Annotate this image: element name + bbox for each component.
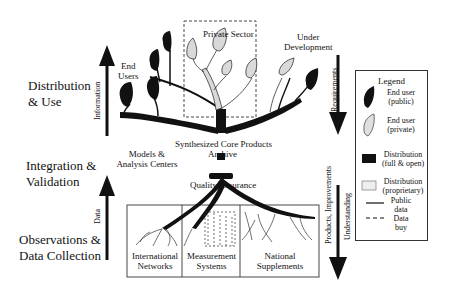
legend-item-public-data: Public data xyxy=(386,196,416,214)
stage-observations-label: Observations & Data Collection xyxy=(19,232,101,263)
legend-private-line1: End user xyxy=(378,116,424,125)
legend-databuy-line1: Data xyxy=(386,214,416,223)
stage-observations-line1: Observations & xyxy=(19,232,101,248)
stage-integration-line2: Validation xyxy=(26,174,96,190)
legend-item-proprietary: Distribution (proprietary) xyxy=(378,177,428,195)
products-improvements-label: Products, Improvements xyxy=(324,166,333,244)
legend-public-line2: (public) xyxy=(378,97,424,106)
private-sector-label: Private Sector xyxy=(203,30,254,40)
legend-item-data-buy: Data buy xyxy=(386,214,416,232)
root-label-measurement: Measurement Systems xyxy=(183,252,240,272)
stage-distribution-line2: & Use xyxy=(28,94,91,110)
under-development-label: Under Development xyxy=(284,33,333,53)
legend-publicdata-line2: data xyxy=(386,205,416,214)
quality-assurance-label: Quality Assurance xyxy=(190,181,256,191)
stage-distribution-label: Distribution & Use xyxy=(28,78,91,109)
understanding-label: Understanding xyxy=(343,193,352,240)
legend-databuy-line2: buy xyxy=(386,223,416,232)
stage-integration-label: Integration & Validation xyxy=(26,158,96,189)
legend-fullopen-line2: (full & open) xyxy=(378,159,428,168)
stage-distribution-line1: Distribution xyxy=(28,78,91,94)
legend-item-full-open: Distribution (full & open) xyxy=(378,150,428,168)
legend-title: Legend xyxy=(356,76,427,86)
legend-fullopen-line1: Distribution xyxy=(378,150,428,159)
root-measurement-line2: Systems xyxy=(183,262,240,272)
legend-item-public-user: End user (public) xyxy=(378,88,424,106)
end-users-label: End Users xyxy=(118,62,139,82)
legend-private-line2: (private) xyxy=(378,125,424,134)
legend-proprietary-line1: Distribution xyxy=(378,177,428,186)
data-label: Data xyxy=(93,209,102,224)
end-users-line2: Users xyxy=(118,72,139,82)
legend-proprietary-line2: (proprietary) xyxy=(378,186,428,195)
archive-label: Synthesized Core Products Archive xyxy=(175,140,270,160)
legend-publicdata-line1: Public xyxy=(386,196,416,205)
root-label-national: National Supplements xyxy=(241,252,319,272)
tree-diagram: Distribution & Use Integration & Validat… xyxy=(0,0,450,292)
archive-line2: Archive xyxy=(175,150,270,160)
root-national-line2: Supplements xyxy=(241,262,319,272)
root-label-international: International Networks xyxy=(128,252,182,272)
stage-integration-line1: Integration & xyxy=(26,158,96,174)
requirements-label: Requirements xyxy=(330,68,339,112)
legend-public-line1: End user xyxy=(378,88,424,97)
root-international-line2: Networks xyxy=(128,262,182,272)
legend-item-private-user: End user (private) xyxy=(378,116,424,134)
information-label: Information xyxy=(93,82,102,120)
stage-observations-line2: Data Collection xyxy=(19,248,101,264)
models-line2: Analysis Centers xyxy=(107,160,187,170)
under-development-line2: Development xyxy=(284,43,333,53)
